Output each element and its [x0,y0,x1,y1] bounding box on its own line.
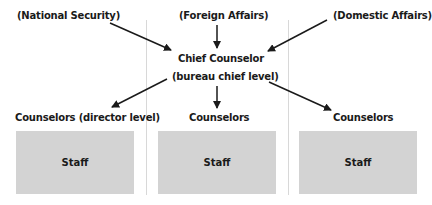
staff-box-right: Staff [299,131,417,194]
counselors-director-label: Counselors (director level) [15,112,160,123]
arrow-domestic-to-chief [268,20,327,51]
arrow-chief-to-director [112,79,167,107]
arrow-national-to-chief [110,23,171,50]
input-domestic-affairs: (Domestic Affairs) [333,10,432,21]
staff-label: Staff [204,157,231,168]
counselors-center-label: Counselors [189,112,249,123]
chief-counselor-level: (bureau chief level) [172,71,279,82]
staff-label: Staff [345,157,372,168]
staff-box-center: Staff [158,131,276,194]
input-national-security: (National Security) [17,10,120,21]
arrow-chief-to-right [269,82,331,110]
counselors-right-label: Counselors [333,112,393,123]
staff-box-left: Staff [16,131,134,194]
chief-counselor-title: Chief Counselor [178,53,264,64]
input-foreign-affairs: (Foreign Affairs) [179,10,268,21]
staff-label: Staff [62,157,89,168]
